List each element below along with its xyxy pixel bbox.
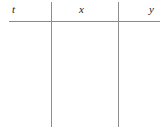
empty-cell-column-x [52, 22, 118, 127]
column-header-y: y [149, 4, 154, 15]
column-header-x: x [79, 4, 84, 15]
empty-cell-column-y [119, 22, 165, 127]
column-header-t: t [12, 4, 15, 15]
table-figure: t x y [0, 0, 165, 139]
empty-cell-column-t [0, 22, 51, 127]
